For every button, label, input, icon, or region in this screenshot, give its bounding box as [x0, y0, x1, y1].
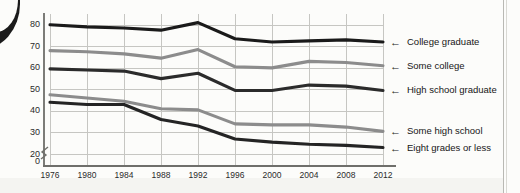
- legend-arrow-icon: ←: [390, 37, 407, 47]
- legend-arrow-icon: ←: [390, 85, 407, 95]
- legend-arrow-icon: ←: [390, 143, 407, 153]
- legend-item-2[interactable]: ←Some college: [390, 61, 465, 71]
- legend-label: Some high school: [407, 125, 483, 136]
- legend-item-3[interactable]: ←High school graduate: [390, 85, 497, 95]
- series-line-3: [50, 69, 383, 91]
- legend-arrow-icon: ←: [390, 126, 407, 136]
- legend-item-4[interactable]: ←Some high school: [390, 126, 483, 136]
- chart-figure: 020304050607080 197619801984198819921996…: [0, 0, 520, 193]
- legend-arrow-icon: ←: [390, 61, 407, 71]
- legend-label: Some college: [407, 60, 465, 71]
- series-line-2: [50, 50, 383, 68]
- series-line-1: [50, 23, 383, 42]
- legend-item-5[interactable]: ←Eight grades or less: [390, 143, 491, 153]
- legend-label: Eight grades or less: [407, 142, 491, 153]
- data-lines: [0, 0, 520, 193]
- legend-label: High school graduate: [407, 84, 497, 95]
- legend-item-1[interactable]: ←College graduate: [390, 37, 479, 47]
- legend-label: College graduate: [407, 36, 479, 47]
- series-line-4: [50, 95, 383, 132]
